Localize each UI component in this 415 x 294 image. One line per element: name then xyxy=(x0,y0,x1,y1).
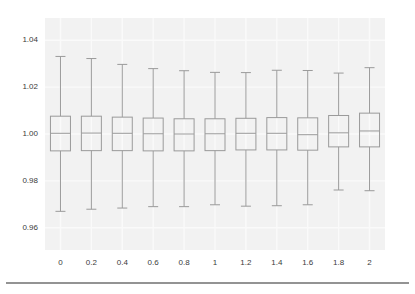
box-plot-chart: 0.960.981.001.021.0400.20.40.60.811.21.4… xyxy=(0,0,415,294)
x-tick-label-8: 1.6 xyxy=(302,258,314,267)
x-tick-label-1: 0.2 xyxy=(86,258,98,267)
x-axis-tick-labels: 00.20.40.60.811.21.41.61.82 xyxy=(58,258,372,267)
figure-canvas: 0.960.981.001.021.0400.20.40.60.811.21.4… xyxy=(0,0,415,294)
x-tick-label-9: 1.8 xyxy=(333,258,345,267)
y-tick-label-1: 0.98 xyxy=(22,176,38,185)
y-axis-tick-labels: 0.960.981.001.021.04 xyxy=(22,35,38,231)
x-tick-label-5: 1 xyxy=(213,258,218,267)
x-tick-label-4: 0.8 xyxy=(179,258,191,267)
x-tick-label-3: 0.6 xyxy=(148,258,160,267)
y-tick-label-4: 1.04 xyxy=(22,35,38,44)
x-tick-label-6: 1.2 xyxy=(240,258,252,267)
x-tick-label-10: 2 xyxy=(367,258,372,267)
x-tick-label-7: 1.4 xyxy=(271,258,283,267)
y-tick-label-3: 1.02 xyxy=(22,82,38,91)
y-tick-label-0: 0.96 xyxy=(22,223,38,232)
x-tick-label-0: 0 xyxy=(58,258,63,267)
y-tick-label-2: 1.00 xyxy=(22,129,38,138)
x-tick-label-2: 0.4 xyxy=(117,258,129,267)
